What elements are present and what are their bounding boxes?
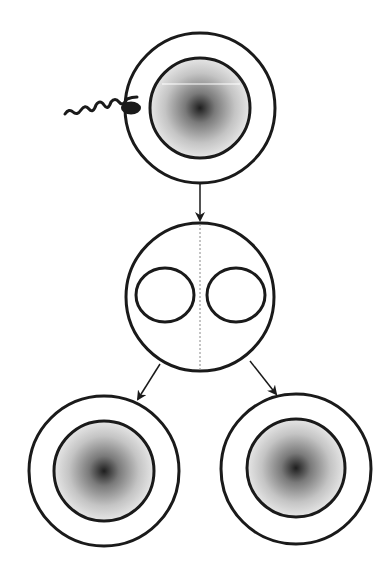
cell-division-diagram [0,0,392,579]
diagram-canvas [0,0,392,579]
nucleus-right [207,268,265,322]
daughter-cell-right [221,394,371,544]
arrow-right [250,361,276,394]
zygote-cell [65,33,275,183]
arrow-left [138,364,160,399]
nucleus [54,421,154,521]
egg-nucleus [150,58,250,158]
daughter-cell-left [29,396,179,546]
nucleus-left [136,268,194,322]
nucleus [247,419,345,517]
sperm-icon [65,97,141,115]
dividing-cell [126,223,274,371]
